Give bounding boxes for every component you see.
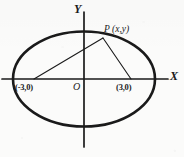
- point-p-label: P (x,y): [104, 25, 129, 35]
- x-axis-label: X: [170, 70, 178, 82]
- focal-radius-left-segment: [34, 38, 103, 79]
- origin-label: O: [73, 82, 80, 92]
- ellipse-figure: Y X O P (x,y) (-3,0) (3,0): [0, 0, 184, 157]
- y-axis-label: Y: [74, 3, 81, 15]
- focal-radius-right-segment: [103, 38, 131, 79]
- ellipse-diagram-canvas: [0, 0, 184, 157]
- focus-right-label: (3,0): [116, 83, 131, 92]
- focus-left-label: (-3,0): [15, 83, 33, 92]
